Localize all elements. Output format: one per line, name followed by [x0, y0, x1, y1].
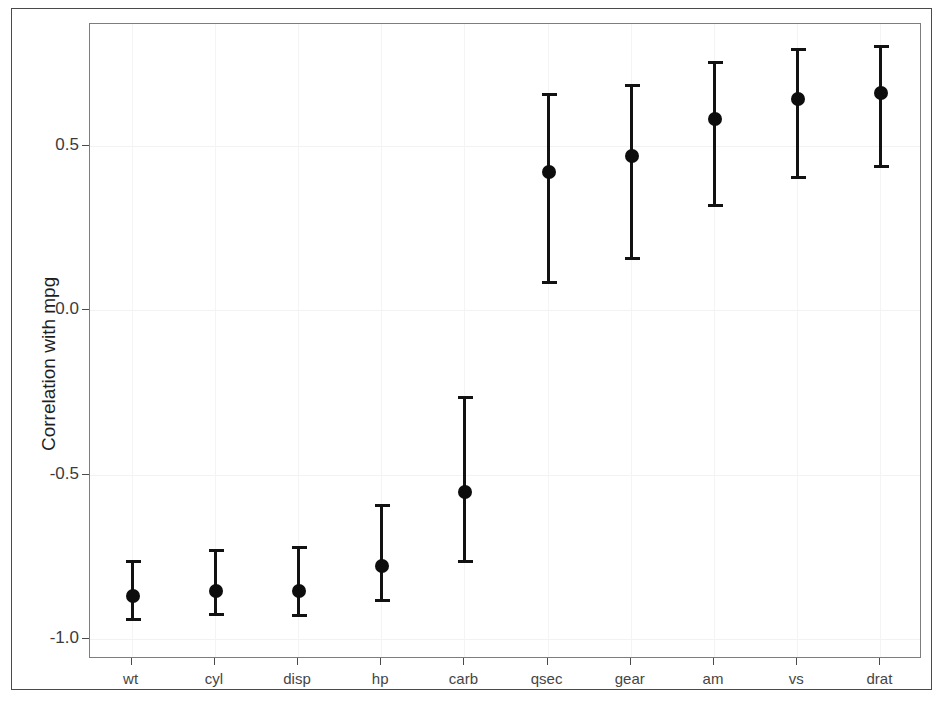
y-tick-mark: [82, 638, 89, 639]
data-point-vs: [791, 92, 805, 106]
whisker-cap-upper: [542, 93, 557, 96]
whisker-cap-lower: [874, 165, 889, 168]
data-point-hp: [375, 559, 389, 573]
errorbar-gear: [631, 24, 632, 658]
x-tick-label-am: am: [703, 670, 724, 687]
y-tick-label: -1.0: [9, 628, 79, 648]
data-point-drat: [874, 86, 888, 100]
whisker-line: [879, 45, 882, 168]
errorbar-disp: [298, 24, 299, 658]
plot-panel: [89, 23, 921, 658]
whisker-line: [796, 48, 799, 179]
x-tick-label-qsec: qsec: [531, 670, 563, 687]
whisker-line: [214, 549, 217, 616]
data-point-disp: [292, 584, 306, 598]
x-tick-label-cyl: cyl: [205, 670, 223, 687]
errorbar-drat: [880, 24, 881, 658]
whisker-cap-upper: [625, 84, 640, 87]
whisker-cap-lower: [791, 176, 806, 179]
x-tick-mark: [131, 658, 132, 665]
y-tick-mark: [82, 145, 89, 146]
x-tick-label-disp: disp: [283, 670, 311, 687]
whisker-line: [380, 504, 383, 602]
y-tick-label: -0.5: [9, 464, 79, 484]
x-tick-mark: [713, 658, 714, 665]
x-tick-mark: [380, 658, 381, 665]
correlation-errorbar-figure: Correlation with mpg 0.50.0-0.5-1.0 wtcy…: [0, 0, 943, 703]
errorbar-cyl: [215, 24, 216, 658]
whisker-cap-lower: [708, 204, 723, 207]
whisker-line: [547, 93, 550, 284]
whisker-cap-lower: [625, 257, 640, 260]
y-tick-label: 0.0: [9, 299, 79, 319]
x-tick-mark: [547, 658, 548, 665]
whisker-line: [630, 84, 633, 260]
x-tick-label-carb: carb: [449, 670, 478, 687]
errorbar-carb: [464, 24, 465, 658]
whisker-line: [463, 396, 466, 563]
whisker-cap-lower: [375, 599, 390, 602]
data-point-am: [708, 112, 722, 126]
x-tick-label-wt: wt: [123, 670, 138, 687]
data-point-cyl: [209, 584, 223, 598]
whisker-cap-upper: [458, 396, 473, 399]
whisker-cap-upper: [126, 560, 141, 563]
data-point-qsec: [542, 165, 556, 179]
whisker-cap-upper: [874, 45, 889, 48]
data-point-wt: [126, 589, 140, 603]
whisker-line: [713, 61, 716, 207]
errorbar-wt: [132, 24, 133, 658]
errorbar-hp: [381, 24, 382, 658]
x-tick-mark: [879, 658, 880, 665]
whisker-cap-upper: [292, 546, 307, 549]
whisker-cap-lower: [126, 618, 141, 621]
whisker-cap-upper: [708, 61, 723, 64]
y-tick-mark: [82, 309, 89, 310]
data-point-carb: [458, 485, 472, 499]
errorbar-qsec: [548, 24, 549, 658]
x-tick-label-drat: drat: [866, 670, 892, 687]
x-tick-mark: [630, 658, 631, 665]
whisker-cap-lower: [209, 613, 224, 616]
whisker-cap-upper: [375, 504, 390, 507]
x-tick-mark: [214, 658, 215, 665]
whisker-cap-upper: [209, 549, 224, 552]
x-tick-mark: [463, 658, 464, 665]
errorbar-vs: [797, 24, 798, 658]
x-tick-label-vs: vs: [789, 670, 804, 687]
errorbar-am: [714, 24, 715, 658]
x-tick-label-hp: hp: [372, 670, 389, 687]
x-tick-label-gear: gear: [615, 670, 645, 687]
whisker-line: [297, 546, 300, 617]
y-tick-mark: [82, 474, 89, 475]
x-tick-mark: [796, 658, 797, 665]
y-tick-label: 0.5: [9, 135, 79, 155]
whisker-cap-lower: [292, 614, 307, 617]
whisker-cap-upper: [791, 48, 806, 51]
x-tick-mark: [297, 658, 298, 665]
data-point-gear: [625, 149, 639, 163]
whisker-cap-lower: [458, 560, 473, 563]
whisker-cap-lower: [542, 281, 557, 284]
